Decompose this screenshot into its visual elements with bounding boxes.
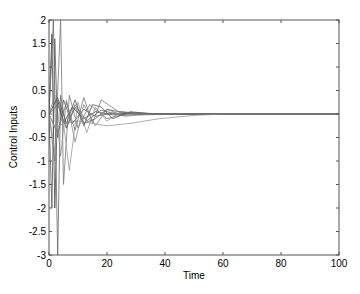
y-tick-label: -2 xyxy=(37,203,46,214)
plot-background xyxy=(49,20,339,255)
y-tick-label: 0.5 xyxy=(32,85,46,96)
y-tick-label: -3 xyxy=(37,250,46,261)
y-tick-label: -0.5 xyxy=(29,132,47,143)
x-tick-label: 20 xyxy=(101,258,113,269)
x-tick-label: 0 xyxy=(46,258,52,269)
y-tick-label: 2 xyxy=(40,15,46,26)
x-tick-label: 60 xyxy=(217,258,229,269)
y-tick-label: 1.5 xyxy=(32,38,46,49)
y-tick-label: 1 xyxy=(40,62,46,73)
x-tick-label: 100 xyxy=(331,258,348,269)
line-chart: 020406080100 -3-2.5-2-1.5-1-0.500.511.52… xyxy=(0,0,360,294)
x-axis-label: Time xyxy=(183,270,205,281)
x-tick-label: 40 xyxy=(159,258,171,269)
y-tick-label: -1.5 xyxy=(29,179,47,190)
y-tick-label: 0 xyxy=(40,109,46,120)
x-tick-label: 80 xyxy=(275,258,287,269)
y-tick-label: -1 xyxy=(37,156,46,167)
y-axis-label: Control Inputs xyxy=(8,106,19,168)
y-tick-label: -2.5 xyxy=(29,226,47,237)
